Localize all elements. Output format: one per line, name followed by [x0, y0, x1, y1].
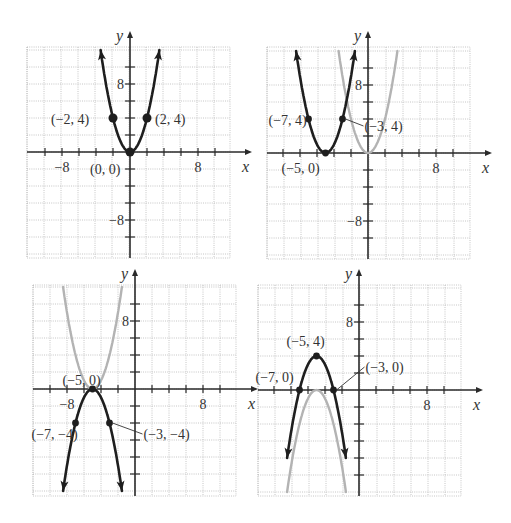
x-tick-label: 8 — [195, 160, 202, 175]
data-point-marker — [143, 114, 152, 123]
x-tick-label: 8 — [424, 398, 431, 413]
x-tick-label: −8 — [60, 397, 75, 412]
data-point-marker — [339, 116, 346, 123]
point-label: (−3, 4) — [365, 119, 404, 135]
point-label: (0, 0) — [90, 162, 121, 178]
y-tick-label: −8 — [347, 214, 362, 229]
y-axis-label: y — [343, 265, 353, 283]
x-tick-label: 8 — [200, 397, 207, 412]
point-label: (−7, 0) — [256, 370, 295, 386]
data-point-marker — [330, 387, 337, 394]
parabola-curve — [296, 51, 355, 153]
graph-panel-bottom-left: xy−888(−7, −4)(−5, 0)(−3, −4) — [32, 265, 259, 496]
point-label: (−2, 4) — [51, 112, 90, 128]
label-leader-line — [113, 423, 143, 434]
graph-panel-top-left: xy−888−8(−2, 4)(0, 0)(2, 4) — [27, 27, 252, 258]
point-label: (−7, 4) — [269, 113, 308, 129]
y-axis-arrow-icon — [365, 31, 371, 38]
x-axis-label: x — [241, 158, 249, 175]
point-label: (2, 4) — [155, 112, 186, 128]
data-point-marker — [126, 148, 135, 157]
y-tick-label: −8 — [109, 213, 124, 228]
point-label: (−5, 0) — [63, 373, 102, 389]
x-tick-label: 8 — [433, 161, 440, 176]
x-axis-arrow-icon — [476, 387, 483, 393]
label-leader-line — [346, 119, 364, 126]
y-tick-label: 8 — [117, 77, 124, 92]
x-tick-label: −8 — [55, 160, 70, 175]
parabola-transformations-figure: xy−888−8(−2, 4)(0, 0)(2, 4) xy88−8(−7, 4… — [0, 0, 511, 523]
point-label: (−7, −4) — [32, 427, 78, 443]
point-label: (−5, 4) — [287, 334, 326, 350]
data-point-marker — [296, 387, 303, 394]
x-axis-label: x — [247, 395, 255, 412]
x-axis-arrow-icon — [251, 386, 258, 392]
data-point-marker — [322, 150, 329, 157]
graph-panel-top-right: xy88−8(−7, 4)(−5, 0)(−3, 4) — [267, 27, 492, 259]
y-axis-label: y — [114, 27, 124, 45]
graph-panel-bottom-right: xy88(−7, 0)(−5, 4)(−3, 0) — [256, 265, 484, 496]
x-axis-arrow-icon — [245, 149, 252, 155]
y-tick-label: 8 — [122, 314, 129, 329]
data-point-marker — [72, 420, 79, 427]
point-label: (−3, 0) — [366, 360, 405, 376]
x-axis-arrow-icon — [485, 150, 492, 156]
axes: xy88−8 — [267, 27, 492, 259]
x-axis-label: x — [481, 159, 489, 176]
data-point-marker — [106, 420, 113, 427]
x-axis-label: x — [472, 396, 480, 413]
y-axis-label: y — [119, 265, 129, 283]
y-axis-arrow-icon — [132, 269, 138, 276]
y-axis-label: y — [352, 27, 362, 45]
y-axis-arrow-icon — [356, 269, 362, 276]
y-axis-arrow-icon — [127, 31, 133, 38]
y-tick-label: 8 — [346, 315, 353, 330]
point-label: (−3, −4) — [144, 427, 190, 443]
data-point-marker — [313, 353, 320, 360]
data-point-marker — [109, 114, 118, 123]
y-tick-label: 8 — [355, 78, 362, 93]
point-label: (−5, 0) — [282, 161, 321, 177]
